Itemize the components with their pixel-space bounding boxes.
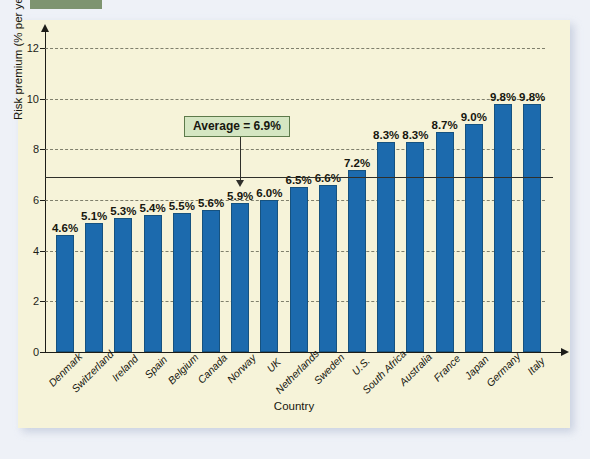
bar: 6.0% [260,200,278,352]
x-axis-tick-label: Germany [484,350,523,389]
bar: 5.4% [144,215,162,352]
y-axis-tick-label: 10 [27,93,39,105]
bar: 5.3% [114,218,132,352]
bar: 5.5% [173,213,191,352]
x-axis-tick-label: Canada [195,351,229,385]
gridline [45,99,545,100]
bar-value-label: 9.0% [461,111,487,123]
x-axis-tick-label: Norway [225,351,259,385]
gridline [45,48,545,49]
x-axis-arrow-icon [561,348,569,356]
bar: 7.2% [348,170,366,352]
bar: 5.9% [231,203,249,352]
bar-value-label: 5.1% [81,210,107,222]
y-axis-tick-mark [40,251,45,252]
top-green-tab [30,0,102,9]
y-axis-tick-label: 0 [33,346,39,358]
x-axis-tick-label: UK [265,356,284,375]
bar: 9.8% [494,104,512,352]
y-axis-tick-mark [40,200,45,201]
bar-value-label: 9.8% [490,91,516,103]
average-line [45,177,553,178]
bar: 8.3% [406,142,424,352]
x-axis-tick-label: Netherlands [272,347,321,396]
bar-value-label: 6.0% [256,187,282,199]
y-axis-tick-label: 12 [27,42,39,54]
y-axis-tick-label: 8 [33,143,39,155]
bar-value-label: 8.7% [431,119,457,131]
average-callout-box: Average = 6.9% [184,116,290,137]
bar-value-label: 5.3% [110,205,136,217]
y-axis-tick-label: 2 [33,295,39,307]
bar-value-label: 9.8% [519,91,545,103]
bar-value-label: 5.9% [227,190,253,202]
x-axis-tick-label: U.S. [349,355,372,378]
bar-value-label: 5.5% [169,200,195,212]
bar: 9.0% [465,124,483,352]
chart-panel: Risk premium (% per year) Country 024681… [18,20,570,428]
x-axis-tick-label: France [430,352,462,384]
bar: 9.8% [523,104,541,352]
bar-value-label: 8.3% [402,129,428,141]
bar-value-label: 5.6% [198,197,224,209]
y-axis-tick-mark [40,99,45,100]
bar: 5.6% [202,210,220,352]
bar: 8.7% [436,132,454,352]
y-axis-tick-mark [40,352,45,353]
bar-value-label: 4.6% [52,222,78,234]
x-axis-tick-label: South Africa [360,347,409,396]
y-axis-tick-label: 4 [33,245,39,257]
bar-value-label: 6.5% [285,174,311,186]
bar-value-label: 8.3% [373,129,399,141]
bar: 6.6% [319,185,337,352]
y-axis-tick-label: 6 [33,194,39,206]
y-axis-title: Risk premium (% per year) [12,0,24,120]
bar-value-label: 5.4% [139,202,165,214]
y-axis-tick-mark [40,301,45,302]
y-axis-line [45,30,46,352]
x-axis-title: Country [18,400,570,412]
y-axis-tick-mark [40,149,45,150]
y-axis-tick-mark [40,48,45,49]
bar-value-label: 7.2% [344,157,370,169]
plot-area: 024681012 4.6%5.1%5.3%5.4%5.5%5.6%5.9%6.… [45,48,561,352]
bar: 4.6% [56,235,74,352]
bar: 6.5% [290,187,308,352]
y-axis-arrow-icon [41,24,49,32]
bar: 5.1% [85,223,103,352]
bar: 8.3% [377,142,395,352]
average-callout-arrow-icon [236,180,244,187]
x-axis-tick-label: Belgium [165,351,200,386]
average-callout-connector [240,137,241,184]
x-axis-tick-label: Italy [525,355,547,377]
